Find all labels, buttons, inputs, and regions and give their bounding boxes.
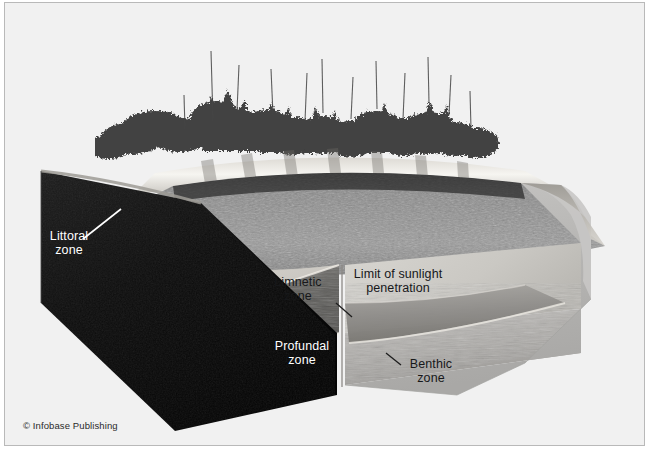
lake-zones-figure: Littoral zone Limnetic zone Limit of sun… <box>0 0 652 468</box>
lake-block-diagram-svg <box>5 3 645 446</box>
diagram-scene: Littoral zone Limnetic zone Limit of sun… <box>5 3 644 445</box>
copyright-credit: © Infobase Publishing <box>23 420 118 431</box>
figure-plate: Littoral zone Limnetic zone Limit of sun… <box>4 2 645 446</box>
